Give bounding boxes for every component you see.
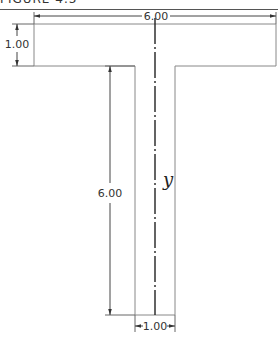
flange-thickness-label: 1.00 xyxy=(5,38,30,51)
flange-width-label: 6.00 xyxy=(144,10,169,23)
web-width-label: 1.00 xyxy=(143,320,168,333)
t-section-diagram: 6.00 1.00 6.00 1.00 y xyxy=(0,0,278,337)
web-height-label: 6.00 xyxy=(98,187,123,200)
y-axis-label: y xyxy=(162,169,174,190)
